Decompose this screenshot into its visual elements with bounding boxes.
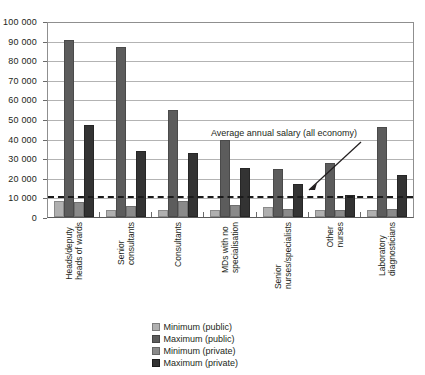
bar-minpriv [387,209,397,217]
y-axis-tick-label: 60 000 [8,95,37,105]
legend-swatch-icon [152,347,160,355]
x-axis-category-label-line: Consultants [173,222,183,267]
x-axis-category-label-line: nurses/specialists [283,222,293,289]
x-axis-category: Othernurses [309,222,361,312]
y-axis-tick-label: 0 [32,213,37,223]
y-axis-tick-label: 70 000 [8,76,37,86]
bar-minpub [210,210,220,217]
bar-minpub [158,210,168,217]
bar-minpub [106,210,116,217]
y-axis-tick-label: 10 000 [8,193,37,203]
y-axis-tick-label: 80 000 [8,56,37,66]
x-axis-category: MDs with nospecialisation [204,222,256,312]
bar-maxpub [64,40,74,217]
bar-group [48,22,100,217]
y-axis-tick-label: 50 000 [8,115,37,125]
x-axis-category-label-line: Laboratory [377,222,387,276]
x-axis-category-label: Heads/deputyheads of wards [64,222,84,280]
legend-swatch-icon [152,323,160,331]
bar-minpriv [230,205,240,217]
y-axis: 010 00020 00030 00040 00050 00060 00070 … [0,22,43,218]
y-axis-tick-label: 40 000 [8,135,37,145]
bar-minpub [315,210,325,217]
y-axis-tick-label: 100 000 [3,17,37,27]
bar-maxpriv [240,168,250,217]
legend-label: Minimum (private) [164,346,236,356]
y-axis-tick-label: 90 000 [8,37,37,47]
legend-label: Minimum (public) [164,322,233,332]
y-axis-tick-label: 20 000 [8,174,37,184]
bar-groups [48,22,413,217]
x-axis-category-label-line: diagnosticians [387,222,397,276]
bar-chart: 010 00020 00030 00040 00050 00060 00070 … [0,0,425,375]
legend-item[interactable]: Minimum (public) [152,322,274,332]
legend-item[interactable]: Maximum (public) [152,334,274,344]
x-axis-category: Laboratorydiagnosticians [361,222,413,312]
x-axis-category-label-line: MDs with no [220,222,230,273]
bar-minpriv [178,201,188,217]
bar-group [257,22,309,217]
bar-group [361,22,413,217]
bar-minpub [367,210,377,217]
x-axis-category-label: Laboratorydiagnosticians [377,222,397,276]
bar-maxpub [325,163,335,217]
bar-minpub [54,201,64,217]
x-axis-category-label-line: heads of wards [74,222,84,280]
average-salary-annotation: Average annual salary (all economy) [211,128,357,138]
x-axis-category-label-line: Heads/deputy [64,222,74,280]
x-axis-category-labels: Heads/deputyheads of wardsSeniorconsulta… [48,222,413,312]
legend-label: Maximum (private) [164,358,239,368]
bar-maxpub [220,140,230,217]
x-axis-category: Seniornurses/specialists [257,222,309,312]
x-axis-category: Heads/deputyheads of wards [48,222,100,312]
x-axis-category-label-line: Senior [273,222,283,289]
x-axis-category-label-line: nurses [335,222,345,248]
bar-maxpriv [293,184,303,217]
x-axis-category-label-line: Senior [116,222,126,265]
legend-swatch-icon [152,335,160,343]
x-axis-category: Consultants [152,222,204,312]
bar-minpriv [335,210,345,217]
bar-group [204,22,256,217]
y-axis-tick-label: 30 000 [8,154,37,164]
bar-maxpriv [84,125,94,217]
x-axis-category-label: Seniornurses/specialists [273,222,293,289]
bar-maxpub [116,47,126,217]
bar-group [100,22,152,217]
bar-maxpub [377,127,387,217]
x-axis-category-label: Othernurses [325,222,345,248]
legend-item[interactable]: Maximum (private) [152,358,274,368]
bar-minpriv [74,202,84,217]
bar-minpriv [126,206,136,217]
bar-maxpriv [188,153,198,217]
chart-legend: Minimum (public)Maximum (public)Minimum … [0,322,425,368]
x-axis-category-label-line: specialisation [230,222,240,273]
bar-maxpub [168,110,178,217]
bar-maxpriv [136,151,146,217]
x-axis-category-label: Consultants [173,222,183,267]
bar-group [152,22,204,217]
legend-swatch-icon [152,359,160,367]
x-axis-category-label: Seniorconsultants [116,222,136,265]
x-axis-category-label: MDs with nospecialisation [220,222,240,273]
legend-item[interactable]: Minimum (private) [152,346,274,356]
legend-label: Maximum (public) [164,334,235,344]
x-axis-category: Seniorconsultants [100,222,152,312]
bar-minpriv [283,209,293,217]
average-salary-reference-line [48,196,413,198]
bar-group [309,22,361,217]
y-axis-tick [43,218,47,219]
x-axis-category-label-line: Other [325,222,335,248]
bar-maxpub [273,169,283,217]
bar-minpub [263,207,273,217]
x-axis-category-label-line: consultants [126,222,136,265]
